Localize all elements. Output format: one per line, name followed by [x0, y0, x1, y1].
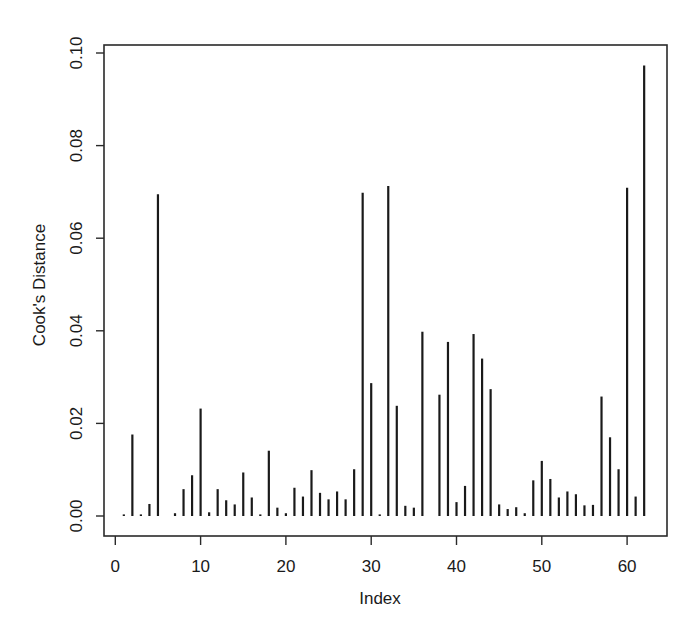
bars-group — [124, 66, 644, 516]
x-tick-label: 10 — [191, 557, 210, 576]
cooks-distance-chart: 0.000.020.040.060.080.10 0102030405060 I… — [0, 0, 696, 628]
x-tick-label: 0 — [111, 557, 120, 576]
x-axis: 0102030405060 — [111, 536, 637, 576]
x-tick-label: 30 — [362, 557, 381, 576]
plot-frame — [104, 45, 667, 536]
y-axis-title: Cook's Distance — [30, 224, 49, 346]
x-tick-label: 50 — [532, 557, 551, 576]
y-axis: 0.000.020.040.060.080.10 — [67, 36, 104, 532]
y-tick-label: 0.06 — [67, 222, 86, 255]
x-tick-label: 60 — [618, 557, 637, 576]
y-tick-label: 0.02 — [67, 407, 86, 440]
y-tick-label: 0.08 — [67, 129, 86, 162]
y-tick-label: 0.10 — [67, 36, 86, 69]
x-tick-label: 20 — [276, 557, 295, 576]
y-tick-label: 0.00 — [67, 499, 86, 532]
y-tick-label: 0.04 — [67, 314, 86, 347]
x-tick-label: 40 — [447, 557, 466, 576]
x-axis-title: Index — [359, 589, 401, 608]
